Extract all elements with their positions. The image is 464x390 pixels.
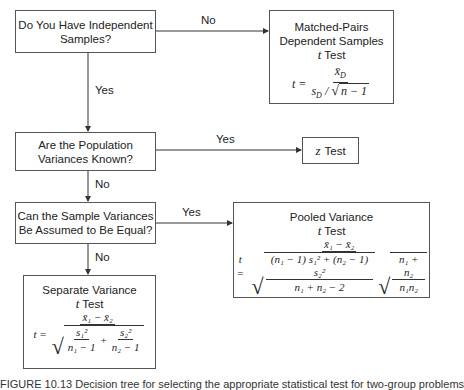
edge-label-no: No xyxy=(95,178,110,190)
node-text: Matched-Pairs xyxy=(270,20,393,34)
edge-label-yes: Yes xyxy=(182,206,201,218)
node-text: Pooled Variance xyxy=(234,210,429,224)
node-text: Are the Population xyxy=(16,138,155,152)
node-separate-variance-t-test: Separate Variance t Test t = x̄₁ − x̄₂ √… xyxy=(23,275,156,369)
node-text: Be Assumed to Be Equal? xyxy=(16,223,155,237)
formula-lhs: t = xyxy=(234,252,247,280)
formula-lhs: t = xyxy=(292,77,306,91)
t-symbol: t xyxy=(318,223,322,238)
formula-separate: t = x̄₁ − x̄₂ √ s₁²n₁ − 1 + s₂²n₂ − 1 xyxy=(24,311,155,357)
formula-slash: / xyxy=(325,84,328,98)
formula-numerator: x̄₁ − x̄₂ xyxy=(322,238,356,252)
formula-root: n − 1 xyxy=(339,83,369,98)
formula-term2-den: n₂ − 1 xyxy=(110,340,142,354)
node-text: Can the Sample Variances xyxy=(16,209,155,223)
node-text: Test xyxy=(324,49,345,61)
edge-label-yes: Yes xyxy=(95,84,114,96)
formula-term1-num: s₁² xyxy=(74,326,89,340)
node-population-variances: Are the Population Variances Known? xyxy=(15,132,156,171)
node-text: Dependent Samples xyxy=(270,34,393,48)
formula-n-product: n₁n₂ xyxy=(397,280,420,294)
edge-label-yes: Yes xyxy=(216,133,235,145)
node-text: Samples? xyxy=(16,32,155,46)
node-sample-variances-equal: Can the Sample Variances Be Assumed to B… xyxy=(15,202,156,244)
formula-lhs: t = xyxy=(33,327,46,341)
t-symbol: t xyxy=(76,296,80,311)
formula-pooled-var-num: (n₁ − 1) s₁² + (n₂ − 1) s₂² xyxy=(266,253,374,280)
t-symbol: t xyxy=(318,47,322,62)
formula-n-sum: n₁ + n₂ xyxy=(392,253,425,280)
formula-pooled-var-den: n₁ + n₂ − 2 xyxy=(292,280,346,294)
node-text: Do You Have Independent xyxy=(16,18,155,32)
node-text: Test xyxy=(324,225,345,237)
edge-label-no: No xyxy=(95,251,110,263)
node-independent-samples: Do You Have Independent Samples? xyxy=(15,10,156,53)
figure-caption: FIGURE 10.13 Decision tree for selecting… xyxy=(0,378,464,390)
node-z-test: z Test xyxy=(302,137,359,164)
node-text: Test xyxy=(324,144,345,158)
node-text: Variances Known? xyxy=(16,152,155,166)
formula-sub: D xyxy=(316,92,322,101)
node-pooled-variance-t-test: Pooled Variance t Test t = x̄₁ − x̄₂ √(n… xyxy=(233,202,430,298)
formula-numerator: x̄₁ − x̄₂ xyxy=(80,311,114,325)
formula-term1-den: n₁ − 1 xyxy=(66,340,98,354)
formula-pooled: t = x̄₁ − x̄₂ √(n₁ − 1) s₁² + (n₂ − 1) s… xyxy=(234,238,429,294)
edge-label-no: No xyxy=(201,14,216,26)
formula-matched: t = x̄D sD / √n − 1 xyxy=(270,65,393,104)
formula-sub: D xyxy=(340,71,346,80)
node-text: Test xyxy=(82,298,103,310)
z-symbol: z xyxy=(315,144,320,158)
node-matched-pairs-t-test: Matched-Pairs Dependent Samples t Test t… xyxy=(269,10,394,104)
node-text: Separate Variance xyxy=(24,283,155,297)
formula-plus: + xyxy=(101,333,107,347)
formula-term2-num: s₂² xyxy=(118,326,133,340)
